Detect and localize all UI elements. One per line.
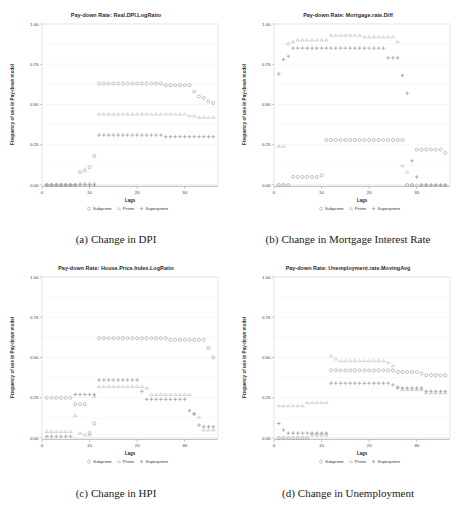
legend-circle xyxy=(319,207,322,210)
legend-triangle xyxy=(349,460,352,462)
legend-triangle xyxy=(349,207,352,209)
legend-label-prime: Prime xyxy=(355,459,367,464)
x-tick-label: 20 xyxy=(367,190,372,195)
y-tick-label: 0.00 xyxy=(30,183,39,188)
legend-label-superprime: Superprime xyxy=(146,459,169,464)
legend-plus xyxy=(372,207,376,211)
chart-panel-d: Pay-down Rate: Unemployment.rate.MovingA… xyxy=(232,253,464,507)
caption-label: (c) xyxy=(76,487,88,499)
legend-label-superprime: Superprime xyxy=(378,206,401,211)
y-tick-label: 0.75 xyxy=(30,315,39,320)
x-tick-label: 30 xyxy=(182,190,187,195)
y-tick-label: 0.75 xyxy=(262,62,271,67)
panel-title: Pay-down Rate: Unemployment.rate.MovingA… xyxy=(232,265,464,271)
y-tick-label: 0.50 xyxy=(262,355,271,360)
legend-label-prime: Prime xyxy=(123,459,135,464)
legend-label-prime: Prime xyxy=(123,206,135,211)
y-tick-label: 0.75 xyxy=(262,315,271,320)
y-axis-label: Frequency of use in Pay-down model xyxy=(10,317,15,398)
legend-label-subprime: Subprime xyxy=(93,459,112,464)
y-tick-label: 0.25 xyxy=(262,142,271,147)
panel-caption-b: (b)Change in Mortgage Interest Rate xyxy=(232,233,464,245)
legend-plus xyxy=(140,460,144,464)
y-tick-label: 1.00 xyxy=(30,22,39,27)
panel-caption-d: (d)Change in Unemployment xyxy=(232,487,464,499)
x-tick-label: 30 xyxy=(414,443,419,448)
x-tick-label: 10 xyxy=(319,443,324,448)
y-axis-label: Frequency of use in Pay-down model xyxy=(242,317,247,398)
scatter-plot-c: 0.000.250.500.751.00Frequency of use in … xyxy=(6,273,228,478)
y-tick-label: 0.50 xyxy=(262,102,271,107)
scatter-plot-a: 0.000.250.500.751.00Frequency of use in … xyxy=(6,20,228,225)
x-tick-label: 10 xyxy=(87,190,92,195)
x-axis-label: Lags xyxy=(125,451,136,456)
x-axis-label: Lags xyxy=(357,198,368,203)
panel-title: Pay-down Rate: Real.DPI.LogRatio xyxy=(0,12,232,18)
y-tick-label: 0.00 xyxy=(262,183,271,188)
caption-text: Change in HPI xyxy=(91,487,156,499)
y-tick-label: 0.25 xyxy=(262,395,271,400)
y-tick-label: 1.00 xyxy=(262,22,271,27)
legend-label-subprime: Subprime xyxy=(325,206,344,211)
x-tick-label: 0 xyxy=(41,443,44,448)
chart-panel-a: Pay-down Rate: Real.DPI.LogRatio0.000.25… xyxy=(0,0,232,253)
x-tick-label: 0 xyxy=(273,190,276,195)
chart-panel-b: Pay-down Rate: Mortgage.rate.Diff0.000.2… xyxy=(232,0,464,253)
y-tick-label: 0.50 xyxy=(30,102,39,107)
y-tick-label: 1.00 xyxy=(30,275,39,280)
x-tick-label: 20 xyxy=(135,443,140,448)
legend-circle xyxy=(87,207,90,210)
legend-triangle xyxy=(117,460,120,462)
legend-label-superprime: Superprime xyxy=(378,459,401,464)
legend-label-prime: Prime xyxy=(355,206,367,211)
legend-label-superprime: Superprime xyxy=(146,206,169,211)
x-axis-label: Lags xyxy=(125,198,136,203)
panel-title: Pay-down Rate: Mortgage.rate.Diff xyxy=(232,12,464,18)
x-tick-label: 20 xyxy=(135,190,140,195)
x-tick-label: 20 xyxy=(367,443,372,448)
legend-plus xyxy=(140,207,144,211)
y-tick-label: 0.50 xyxy=(30,355,39,360)
x-tick-label: 10 xyxy=(319,190,324,195)
legend-circle xyxy=(319,460,322,463)
y-tick-label: 0.25 xyxy=(30,395,39,400)
legend-label-subprime: Subprime xyxy=(93,206,112,211)
x-tick-label: 0 xyxy=(273,443,276,448)
x-axis-label: Lags xyxy=(357,451,368,456)
x-tick-label: 30 xyxy=(182,443,187,448)
caption-label: (b) xyxy=(266,233,279,245)
x-tick-label: 30 xyxy=(414,190,419,195)
chart-panel-c: Pay-down Rate: House.Price.Index.LogRati… xyxy=(0,253,232,507)
scatter-plot-d: 0.000.250.500.751.00Frequency of use in … xyxy=(238,273,460,478)
legend-label-subprime: Subprime xyxy=(325,459,344,464)
caption-text: Change in Mortgage Interest Rate xyxy=(281,233,430,245)
caption-text: Change in Unemployment xyxy=(298,487,414,499)
legend-circle xyxy=(87,460,90,463)
y-tick-label: 1.00 xyxy=(262,275,271,280)
x-tick-label: 10 xyxy=(87,443,92,448)
y-tick-label: 0.75 xyxy=(30,62,39,67)
scatter-plot-b: 0.000.250.500.751.00Frequency of use in … xyxy=(238,20,460,225)
panel-caption-c: (c)Change in HPI xyxy=(0,487,232,499)
y-axis-label: Frequency of use in Pay-down model xyxy=(242,64,247,145)
y-tick-label: 0.00 xyxy=(262,436,271,441)
y-tick-label: 0.25 xyxy=(30,142,39,147)
figure-panel-grid: Pay-down Rate: Real.DPI.LogRatio0.000.25… xyxy=(0,0,464,507)
x-tick-label: 0 xyxy=(41,190,44,195)
legend-triangle xyxy=(117,207,120,209)
caption-label: (a) xyxy=(76,233,88,245)
y-tick-label: 0.00 xyxy=(30,436,39,441)
panel-title: Pay-down Rate: House.Price.Index.LogRati… xyxy=(0,265,232,271)
caption-label: (d) xyxy=(282,487,295,499)
y-axis-label: Frequency of use in Pay-down model xyxy=(10,64,15,145)
legend-plus xyxy=(372,460,376,464)
panel-caption-a: (a)Change in DPI xyxy=(0,233,232,245)
caption-text: Change in DPI xyxy=(91,233,156,245)
